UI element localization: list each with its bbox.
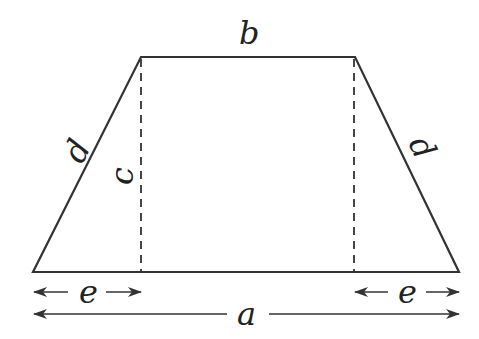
label-d-left: d — [55, 133, 98, 169]
label-b: b — [239, 14, 259, 52]
label-c: c — [103, 167, 141, 185]
trapezoid-diagram: b d c d e e a — [0, 0, 479, 339]
trapezoid-outline — [33, 57, 459, 272]
label-d-right: d — [401, 130, 444, 165]
label-a: a — [237, 295, 256, 333]
label-e-left: e — [79, 273, 98, 311]
label-e-right: e — [398, 273, 417, 311]
